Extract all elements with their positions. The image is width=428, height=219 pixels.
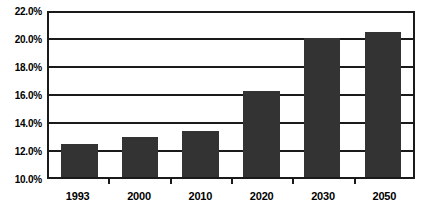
bar xyxy=(182,131,218,177)
bar-slot xyxy=(110,13,171,177)
x-axis-labels: 199320002010202020302050 xyxy=(47,186,415,212)
bar xyxy=(365,32,401,177)
x-tick xyxy=(231,179,233,184)
bar xyxy=(243,91,279,177)
bar-slot xyxy=(231,13,292,177)
bar-slot xyxy=(352,13,413,177)
x-tick-label: 2020 xyxy=(231,186,292,212)
y-tick-label: 20.0% xyxy=(15,34,42,45)
bar xyxy=(61,144,97,177)
bars-layer xyxy=(49,13,413,177)
y-tick-label: 22.0% xyxy=(15,6,42,17)
x-tick-label: 2000 xyxy=(108,186,169,212)
x-tick xyxy=(108,179,110,184)
x-tick-label: 2030 xyxy=(292,186,353,212)
bar-slot xyxy=(49,13,110,177)
x-tick-label: 2010 xyxy=(170,186,231,212)
bar xyxy=(304,38,340,177)
y-tick-label: 12.0% xyxy=(15,146,42,157)
y-tick-label: 18.0% xyxy=(15,62,42,73)
plot-area xyxy=(47,11,415,179)
x-tick xyxy=(170,179,172,184)
x-axis-ticks xyxy=(47,179,415,185)
y-tick-label: 10.0% xyxy=(15,174,42,185)
bar-slot xyxy=(170,13,231,177)
bar-chart: 22.0%20.0%18.0%16.0%14.0%12.0%10.0% 1993… xyxy=(0,0,428,219)
y-axis: 22.0%20.0%18.0%16.0%14.0%12.0%10.0% xyxy=(0,0,45,219)
y-tick-label: 16.0% xyxy=(15,90,42,101)
x-tick-label: 2050 xyxy=(354,186,415,212)
bar xyxy=(122,137,158,177)
bar-slot xyxy=(292,13,353,177)
x-tick-label: 1993 xyxy=(47,186,108,212)
x-tick xyxy=(354,179,356,184)
y-tick-label: 14.0% xyxy=(15,118,42,129)
x-tick xyxy=(292,179,294,184)
